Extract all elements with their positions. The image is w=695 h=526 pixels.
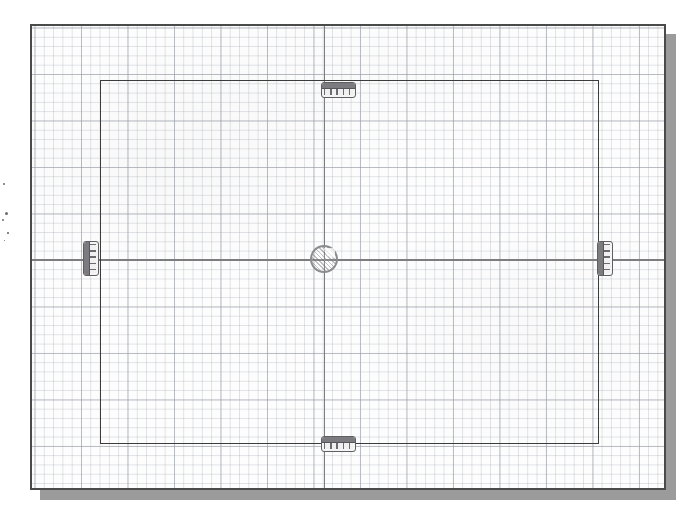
scan-speck: [3, 183, 5, 185]
terminal-block-top: [321, 82, 356, 98]
pivot-highlight: [324, 248, 335, 258]
outer-plate-outline: [100, 80, 599, 444]
terminal-block-bottom-segments: [324, 443, 353, 449]
terminal-block-bottom: [321, 436, 356, 452]
terminal-block-left: [83, 241, 99, 276]
screenshot-canvas: [0, 0, 695, 526]
terminal-block-right-segments: [604, 244, 610, 273]
technical-drawing-layer: [32, 26, 664, 488]
scan-speck: [4, 240, 5, 241]
terminal-block-right: [597, 241, 613, 276]
terminal-block-left-segments: [90, 244, 96, 273]
centre-pivot-circle: [310, 245, 338, 273]
terminal-block-top-segments: [324, 89, 353, 95]
scan-speck: [2, 219, 4, 221]
scan-speck: [7, 232, 9, 234]
graph-paper-sheet: [30, 24, 666, 490]
scan-speck: [5, 212, 8, 215]
